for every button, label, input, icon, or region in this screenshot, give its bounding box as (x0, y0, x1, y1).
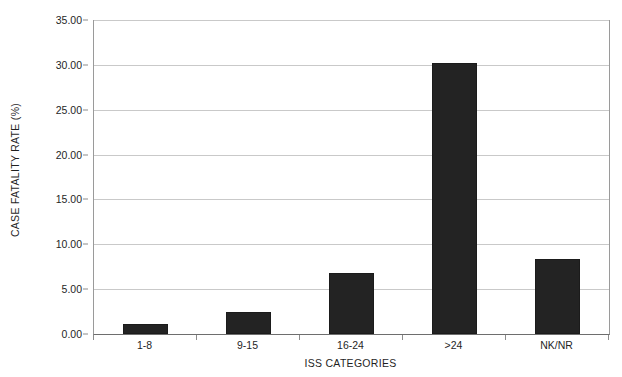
x-axis-tick-labels: 1-89-1516-24>24NK/NR (93, 339, 608, 355)
bar-slot (94, 20, 197, 334)
plot-area (93, 20, 610, 335)
bar-1-8[interactable] (123, 324, 168, 334)
x-axis-tick-label: NK/NR (505, 339, 608, 355)
bar-slot (506, 20, 609, 334)
bar-16-24[interactable] (329, 273, 374, 334)
y-axis-tick-label: 10.00 (56, 238, 82, 250)
y-axis-tick-label: 25.00 (56, 104, 82, 116)
bar-slot (403, 20, 506, 334)
y-axis-tick-mark (83, 244, 88, 245)
y-axis-tick-mark (83, 289, 88, 290)
y-axis-tick-mark (83, 20, 88, 21)
bar->24[interactable] (432, 63, 477, 334)
bars-layer (94, 20, 609, 334)
bar-slot (197, 20, 300, 334)
x-axis-tick-label: 1-8 (93, 339, 196, 355)
y-axis-tick-label: 0.00 (62, 328, 82, 340)
x-axis-tick-mark (608, 335, 609, 340)
y-axis-tick-mark (83, 334, 88, 335)
y-axis-tick-label: 15.00 (56, 193, 82, 205)
bar-slot (300, 20, 403, 334)
y-axis-title-text: CASE FATALITY RATE (%) (9, 103, 21, 237)
y-axis-tick-label: 20.00 (56, 149, 82, 161)
y-axis-tick-label: 5.00 (62, 283, 82, 295)
y-axis-tick-labels: 0.005.0010.0015.0020.0025.0030.0035.00 (26, 20, 88, 334)
x-axis-tick-label: 9-15 (196, 339, 299, 355)
y-axis-tick-label: 35.00 (56, 14, 82, 26)
bar-NK/NR[interactable] (535, 259, 580, 334)
x-axis-tick-label: >24 (402, 339, 505, 355)
bar-9-15[interactable] (226, 312, 271, 334)
y-axis-tick-label: 30.00 (56, 59, 82, 71)
y-axis-tick-mark (83, 154, 88, 155)
x-axis-title: ISS CATEGORIES (93, 357, 608, 369)
y-axis-tick-mark (83, 109, 88, 110)
y-axis-tick-mark (83, 199, 88, 200)
y-axis-tick-mark (83, 64, 88, 65)
x-axis-tick-label: 16-24 (299, 339, 402, 355)
bar-chart: CASE FATALITY RATE (%) 0.005.0010.0015.0… (0, 0, 622, 377)
